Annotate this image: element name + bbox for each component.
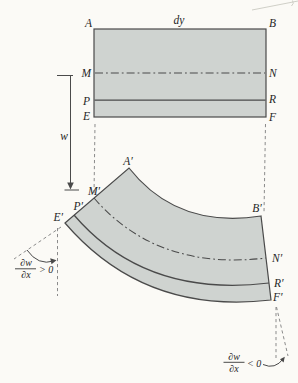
label-P: P [82, 95, 90, 107]
plate-bending-figure: A dy B M N P R E F w A′ B′ M′ N′ P′ R′ E… [0, 0, 298, 383]
label-M-prime: M′ [87, 185, 101, 197]
label-A-prime: A′ [122, 155, 133, 167]
guide-line-from-F [264, 124, 266, 213]
slope-left-numerator: ∂w [20, 257, 32, 268]
label-R-prime: R′ [273, 277, 284, 289]
label-N: N [268, 67, 278, 79]
label-E-prime: E′ [52, 211, 63, 223]
label-R: R [268, 93, 276, 105]
slope-left-comparison: > 0 [39, 264, 53, 275]
label-w: w [60, 130, 68, 142]
slope-right-numerator: ∂w [228, 351, 240, 362]
label-E: E [82, 110, 90, 122]
label-dy: dy [174, 14, 186, 27]
label-F: F [268, 111, 277, 123]
label-F-prime: F′ [272, 291, 283, 303]
label-A: A [84, 17, 93, 29]
slope-left-denominator: ∂x [21, 269, 31, 280]
slope-leader-right [263, 359, 284, 367]
slope-right-denominator: ∂x [229, 363, 239, 374]
label-N-prime: N′ [271, 252, 283, 264]
figure-canvas: A dy B M N P R E F w A′ B′ M′ N′ P′ R′ E… [0, 0, 298, 383]
w-arrowhead-icon [67, 183, 74, 190]
page-artifact-mark [292, 1, 294, 7]
label-B: B [269, 17, 276, 29]
guide-line-from-E [94, 124, 95, 194]
edge-extension-at-F-prime [277, 307, 289, 356]
edge-extension-at-E-prime [14, 227, 61, 259]
slope-right-comparison: < 0 [247, 358, 261, 369]
page-artifact-line [252, 1, 298, 10]
label-M: M [80, 67, 92, 79]
label-B-prime: B′ [252, 202, 262, 214]
label-P-prime: P′ [72, 200, 83, 212]
